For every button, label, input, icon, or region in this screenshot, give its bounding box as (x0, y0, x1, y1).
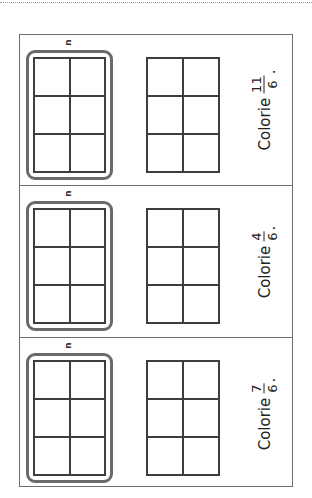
grid-cell[interactable] (183, 134, 219, 172)
grid-cell[interactable] (147, 58, 183, 96)
grid-cell[interactable] (147, 437, 183, 475)
grid-cell[interactable] (70, 247, 106, 285)
grid-cell[interactable] (34, 361, 70, 399)
fraction-denominator: 6 (266, 79, 279, 89)
grid-cell[interactable] (34, 437, 70, 475)
grid-cell[interactable] (70, 58, 106, 96)
fraction-grid-whole[interactable] (33, 57, 106, 173)
instruction-label: Colorie 4 6 . (250, 226, 279, 299)
grid-cell[interactable] (147, 285, 183, 323)
grid-cell[interactable] (183, 437, 219, 475)
grid-cell[interactable] (34, 247, 70, 285)
grid-cell[interactable] (70, 209, 106, 247)
panel-divider (19, 337, 293, 338)
fraction: 4 6 (250, 231, 279, 241)
instruction-label: Colorie 11 6 . (250, 70, 279, 151)
grid-cell[interactable] (70, 399, 106, 437)
period: . (261, 378, 279, 383)
grid-cell[interactable] (34, 209, 70, 247)
grid-cell[interactable] (70, 96, 106, 134)
panel-divider (19, 185, 293, 186)
instruction-word: Colorie (255, 98, 273, 151)
grid-cell[interactable] (147, 134, 183, 172)
period: . (261, 70, 279, 75)
fraction-numerator: 11 (250, 75, 263, 94)
cut-line (0, 2, 312, 3)
period: . (261, 226, 279, 231)
grid-cell[interactable] (70, 437, 106, 475)
fraction-grid-extra[interactable] (146, 208, 220, 324)
grid-cell[interactable] (147, 96, 183, 134)
grid-cell[interactable] (70, 285, 106, 323)
instruction-word: Colorie (255, 246, 273, 299)
instruction-label: Colorie 7 6 . (250, 378, 279, 451)
fraction-denominator: 6 (266, 231, 279, 241)
grid-cell[interactable] (70, 134, 106, 172)
panel-marker: n (64, 342, 73, 348)
panel-marker: n (64, 190, 73, 196)
fraction-denominator: 6 (266, 383, 279, 393)
grid-cell[interactable] (34, 399, 70, 437)
fraction: 7 6 (250, 383, 279, 393)
fraction-grid-extra[interactable] (146, 360, 220, 476)
fraction: 11 6 (250, 75, 279, 94)
fraction-numerator: 4 (250, 231, 263, 241)
instruction-word: Colorie (255, 398, 273, 451)
fraction-numerator: 7 (250, 383, 263, 393)
fraction-grid-whole[interactable] (33, 208, 106, 324)
grid-cell[interactable] (147, 209, 183, 247)
grid-cell[interactable] (183, 96, 219, 134)
grid-cell[interactable] (183, 247, 219, 285)
grid-cell[interactable] (70, 361, 106, 399)
fraction-grid-whole[interactable] (33, 360, 106, 476)
grid-cell[interactable] (147, 399, 183, 437)
fraction-grid-extra[interactable] (146, 57, 220, 173)
grid-cell[interactable] (34, 134, 70, 172)
grid-cell[interactable] (147, 361, 183, 399)
grid-cell[interactable] (147, 247, 183, 285)
panel-marker: n (64, 39, 73, 45)
grid-cell[interactable] (183, 399, 219, 437)
grid-cell[interactable] (183, 209, 219, 247)
grid-cell[interactable] (183, 361, 219, 399)
grid-cell[interactable] (183, 58, 219, 96)
grid-cell[interactable] (34, 58, 70, 96)
grid-cell[interactable] (34, 96, 70, 134)
grid-cell[interactable] (34, 285, 70, 323)
grid-cell[interactable] (183, 285, 219, 323)
